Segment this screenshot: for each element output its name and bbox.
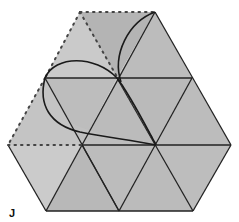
triangle-lattice-diagram bbox=[0, 0, 239, 222]
figure-label: J bbox=[9, 207, 15, 219]
figure-root: J bbox=[0, 0, 239, 222]
triangle-fills bbox=[8, 12, 231, 211]
